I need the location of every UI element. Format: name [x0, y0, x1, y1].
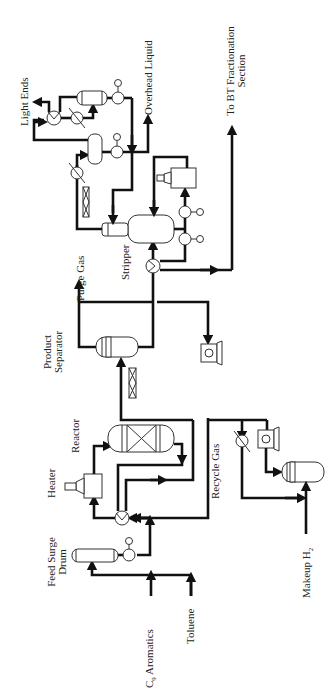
stripper-exchanger-icon	[146, 259, 160, 273]
heater-icon	[65, 474, 102, 498]
light-ends-exchanger-icon	[47, 111, 61, 125]
air-cooler-icon	[129, 368, 136, 398]
reactor-outlet-line	[174, 444, 182, 460]
air-cooler-2-icon	[83, 187, 89, 217]
to-heater-line	[94, 500, 115, 518]
label-feed-surge-drum-2: Drum	[56, 549, 68, 575]
label-reactor: Reactor	[69, 418, 81, 453]
overhead-drum-icon	[88, 134, 102, 164]
label-to-bt-fractionation-2: Section	[235, 54, 247, 87]
label-light-ends: Light Ends	[18, 77, 30, 126]
heater-to-reactor-line	[94, 446, 108, 474]
product-separator-icon	[96, 337, 138, 357]
stripper-pump-lower-icon	[179, 233, 204, 245]
stripper-pump-upper-icon	[179, 206, 204, 218]
light-ends-line	[37, 102, 49, 112]
makeup-compressor-icon	[258, 427, 279, 451]
label-overhead-liquid: Overhead Liquid	[142, 40, 154, 115]
feed-surge-drum	[72, 549, 118, 562]
feed-pump-icon	[123, 538, 135, 562]
light-ends-drum-icon	[77, 91, 107, 105]
label-c9-aromatics: C9 Aromatics	[143, 629, 158, 688]
label-purge-gas: Purge Gas	[74, 256, 86, 301]
label-heater: Heater	[45, 468, 57, 498]
overhead-pump-icon	[111, 134, 123, 159]
reboiler-heater-icon	[157, 168, 196, 188]
feed-effluent-exchanger-icon	[115, 511, 129, 525]
label-toluene: Toluene	[184, 609, 196, 644]
light-ends-cooler-icon	[69, 108, 85, 128]
makeup-drum-icon	[282, 462, 324, 482]
to-recycle-compressor-line	[157, 302, 208, 340]
process-flow-diagram: C9 Aromatics Toluene Feed Surge Drum Hea…	[0, 0, 334, 690]
overhead-liquid-line	[123, 119, 148, 152]
recycle-compressor-icon	[201, 341, 222, 365]
reactor-icon	[108, 425, 174, 452]
label-recycle-gas: Recycle Gas	[209, 444, 221, 499]
label-product-separator-2: Separator	[52, 331, 64, 373]
light-ends-pump-icon	[112, 80, 124, 105]
separator-liquid-line	[138, 266, 153, 347]
label-stripper: Stripper	[119, 244, 131, 280]
label-makeup-h2: Makeup H2	[300, 547, 315, 598]
